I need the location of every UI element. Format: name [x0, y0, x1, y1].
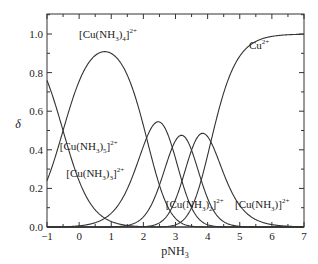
x-tick-label: 4	[205, 230, 211, 242]
x-tick-label: 7	[301, 230, 307, 242]
y-tick-label: 0.8	[29, 67, 43, 79]
y-tick-label: 0.4	[29, 144, 43, 156]
y-tick-label: 1.0	[29, 28, 43, 40]
series-label: [Cu(NH3)4]2+	[79, 27, 137, 43]
series-label: Cu2+	[249, 38, 269, 51]
y-tick-label: 0.6	[29, 105, 43, 117]
x-axis-label: pNH3	[161, 244, 188, 260]
x-tick-label: 2	[141, 230, 147, 242]
distribution-chart: −1012345670.00.20.40.60.81.0 [Cu(NH3)4]2…	[0, 0, 318, 264]
x-tick-label: 1	[109, 230, 115, 242]
series-label: [Cu(NH3)5]2+	[60, 139, 118, 155]
x-tick-label: 3	[173, 230, 179, 242]
series-label: [Cu(NH3)2]2+	[166, 197, 224, 213]
x-tick-label: 0	[76, 230, 82, 242]
x-tick-label: 6	[269, 230, 275, 242]
y-axis-label: δ	[15, 117, 21, 131]
series-labels: [Cu(NH3)4]2+Cu2+[Cu(NH3)5]2+[Cu(NH3)3]2+…	[60, 27, 290, 213]
x-tick-label: 5	[237, 230, 243, 242]
y-tick-label: 0.0	[29, 221, 43, 233]
y-tick-label: 0.2	[29, 182, 43, 194]
series-label: [Cu(NH3)3]2+	[66, 166, 124, 182]
